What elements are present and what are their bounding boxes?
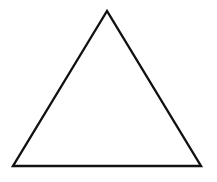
diagram-canvas [0, 0, 217, 182]
triangle-shape [13, 11, 201, 166]
triangle-diagram [0, 0, 217, 182]
